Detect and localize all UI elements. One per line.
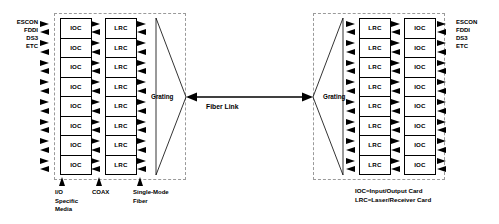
arrow-right-icon — [437, 79, 446, 85]
arrow-pair-ra-2-row-3 — [436, 77, 449, 97]
left-ioc-card-3: IOC — [60, 77, 92, 98]
arrow-pair-la-2-row-2 — [136, 57, 149, 77]
right-ioc-card-column: IOCIOCIOCIOCIOCIOCIOCIOC — [404, 18, 436, 175]
arrow-pair-la-2-row-7 — [136, 155, 149, 175]
left-lrc-card-1: LRC — [105, 38, 137, 59]
arrow-left-icon — [346, 127, 355, 133]
right-ioc-card-7: IOC — [404, 155, 436, 176]
arrow-left-icon — [437, 108, 446, 114]
left-lrc-card-7: LRC — [105, 155, 137, 176]
arrow-pair-ra-1-row-3 — [390, 77, 403, 97]
arrow-left-icon — [91, 108, 100, 114]
left-ioc-card-column: IOCIOCIOCIOCIOCIOCIOCIOC — [60, 18, 92, 175]
left-grating-label: Grating — [151, 93, 173, 100]
arrow-pair-ra-0-row-4 — [345, 97, 358, 117]
arrow-left-icon — [391, 166, 400, 172]
arrow-pair-la-0-row-0 — [39, 18, 52, 38]
callout-io-line-0: I/O — [55, 188, 78, 197]
right-ioc-card-2: IOC — [404, 57, 436, 78]
arrow-right-icon — [40, 119, 49, 125]
callout-io-line-1: Specific — [55, 197, 78, 206]
arrow-pair-ra-1-row-0 — [390, 18, 403, 38]
arrow-pair-ra-1-row-4 — [390, 97, 403, 117]
arrow-pair-ra-2-row-5 — [436, 116, 449, 136]
arrow-right-icon — [40, 138, 49, 144]
right-ioc-card-4: IOC — [404, 96, 436, 117]
right-protocol-label-3: ETC — [456, 42, 496, 50]
arrow-right-icon — [91, 60, 100, 66]
arrow-pair-la-2-row-0 — [136, 18, 149, 38]
right-protocol-labels: ESCON FDDI DS3 ETC — [456, 18, 496, 50]
left-ioc-card-4: IOC — [60, 96, 92, 117]
right-lrc-card-2: LRC — [359, 57, 391, 78]
left-ioc-card-5: IOC — [60, 116, 92, 137]
left-ioc-card-7: IOC — [60, 155, 92, 176]
arrow-right-icon — [91, 138, 100, 144]
arrow-right-icon — [391, 21, 400, 27]
arrow-right-icon — [40, 21, 49, 27]
arrow-column-external-to-ioc-left — [39, 18, 52, 175]
arrow-left-icon — [437, 127, 446, 133]
right-lrc-card-6: LRC — [359, 135, 391, 156]
arrow-pair-ra-0-row-7 — [345, 155, 358, 175]
arrow-right-icon — [437, 40, 446, 46]
arrow-right-icon — [391, 79, 400, 85]
arrow-right-icon — [437, 138, 446, 144]
arrow-pair-ra-0-row-1 — [345, 38, 358, 58]
right-lrc-card-4: LRC — [359, 96, 391, 117]
arrow-pair-ra-2-row-4 — [436, 97, 449, 117]
arrow-pair-la-2-row-3 — [136, 77, 149, 97]
arrow-right-icon — [40, 99, 49, 105]
arrow-right-icon — [391, 138, 400, 144]
arrow-left-icon — [346, 88, 355, 94]
arrow-right-icon — [40, 60, 49, 66]
left-protocol-label-1: FDDI — [10, 26, 38, 34]
arrow-pair-la-0-row-2 — [39, 57, 52, 77]
arrow-left-icon — [391, 49, 400, 55]
arrow-left-icon — [91, 127, 100, 133]
arrow-pair-ra-0-row-6 — [345, 136, 358, 156]
arrow-left-icon — [137, 166, 146, 172]
right-ioc-card-3: IOC — [404, 77, 436, 98]
arrow-pair-ra-1-row-6 — [390, 136, 403, 156]
arrow-pair-la-2-row-4 — [136, 97, 149, 117]
arrow-left-icon — [437, 166, 446, 172]
arrow-left-icon — [40, 127, 49, 133]
arrow-left-icon — [91, 166, 100, 172]
arrow-right-icon — [437, 158, 446, 164]
arrow-left-icon — [137, 147, 146, 153]
right-ioc-card-6: IOC — [404, 135, 436, 156]
arrow-left-icon — [40, 68, 49, 74]
arrow-pair-ra-1-row-1 — [390, 38, 403, 58]
arrow-right-icon — [346, 158, 355, 164]
callout-single-mode-fiber: Single-Mode Fiber — [133, 188, 169, 205]
arrow-pair-ra-0-row-3 — [345, 77, 358, 97]
callout-arrow-single-mode-fiber — [137, 177, 143, 186]
arrow-left-icon — [137, 88, 146, 94]
arrow-right-icon — [137, 158, 146, 164]
arrow-left-icon — [346, 49, 355, 55]
diagram-canvas: ESCON FDDI DS3 ETC ESCON FDDI DS3 ETC IO… — [0, 0, 499, 224]
arrow-left-icon — [346, 108, 355, 114]
arrow-left-icon — [437, 49, 446, 55]
arrow-left-icon — [391, 127, 400, 133]
arrow-right-icon — [346, 138, 355, 144]
arrow-right-icon — [137, 60, 146, 66]
arrow-left-icon — [91, 88, 100, 94]
left-lrc-card-2: LRC — [105, 57, 137, 78]
left-lrc-card-3: LRC — [105, 77, 137, 98]
right-lrc-card-1: LRC — [359, 38, 391, 59]
arrow-right-icon — [391, 40, 400, 46]
left-ioc-card-1: IOC — [60, 38, 92, 59]
callout-arrow-io-specific-media — [59, 177, 65, 186]
arrow-right-icon — [91, 79, 100, 85]
callout-io-line-2: Media — [55, 205, 78, 214]
arrow-left-icon — [91, 147, 100, 153]
left-lrc-card-5: LRC — [105, 116, 137, 137]
callout-coax-line-0: COAX — [92, 188, 109, 197]
right-lrc-card-7: LRC — [359, 155, 391, 176]
arrow-left-icon — [391, 88, 400, 94]
arrow-right-icon — [137, 40, 146, 46]
left-protocol-label-2: DS3 — [10, 34, 38, 42]
arrow-left-icon — [91, 68, 100, 74]
